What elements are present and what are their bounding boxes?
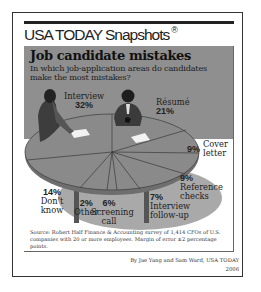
label-name: Other xyxy=(74,208,98,217)
source-note: Source: Robert Half Finance & Accounting… xyxy=(30,229,230,250)
label-resume: Résumé 21% xyxy=(156,98,190,116)
label-name: Interview follow-up xyxy=(150,202,200,220)
chart-title: Job candidate mistakes xyxy=(30,48,191,63)
label-other: 2% Other xyxy=(74,199,98,217)
credit-authors: By Jae Yang and Sam Ward, USA TODAY xyxy=(130,256,239,265)
label-name: Don't know xyxy=(38,197,66,215)
candidate-figure xyxy=(114,90,142,127)
chart-subtitle: In which job-application areas do candid… xyxy=(30,64,230,82)
label-interview: Interview 32% xyxy=(64,92,104,110)
label-interview-followup: 7% Interview follow-up xyxy=(150,193,200,220)
label-value: 9% xyxy=(187,144,200,154)
label-value: 32% xyxy=(64,101,104,110)
label-cover-letter-name: Cover letter xyxy=(203,140,233,158)
label-dont-know: 14% Don't know xyxy=(38,188,66,215)
label-cover-letter: 9% xyxy=(187,145,200,154)
label-value: 21% xyxy=(156,107,190,116)
credit-line: By Jae Yang and Sam Ward, USA TODAY 2006 xyxy=(130,256,239,274)
credit-year: 2006 xyxy=(130,265,239,274)
